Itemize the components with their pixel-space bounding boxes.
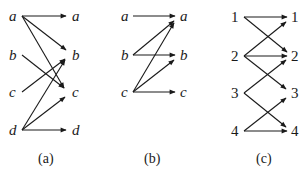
edge-4-3 — [244, 98, 286, 131]
node-1-left: 1 — [231, 9, 239, 25]
edge-d-c — [22, 97, 65, 130]
node-c-left: c — [121, 84, 128, 100]
edge-a-c — [22, 16, 64, 88]
diagram-c-edges — [244, 17, 287, 131]
node-c-right: c — [72, 84, 79, 100]
node-3-left: 3 — [231, 85, 239, 101]
diagram-a-edges — [22, 16, 66, 130]
node-a-left: a — [9, 8, 17, 24]
diagram-b-left-labels: a b c — [121, 8, 129, 100]
edge-d-b — [22, 60, 65, 130]
node-b-right: b — [180, 47, 188, 63]
node-a-right: a — [180, 8, 188, 24]
caption-a: (a) — [38, 151, 54, 167]
edge-b-a — [133, 21, 174, 55]
node-3-right: 3 — [291, 85, 299, 101]
node-4-right: 4 — [291, 123, 299, 139]
bipartite-mapping-diagrams: a b c d a b c d (a) a b c — [0, 0, 306, 176]
node-c-right: c — [180, 84, 187, 100]
node-a-left: a — [121, 8, 129, 24]
diagram-a-right-labels: a b c d — [72, 8, 80, 138]
node-c-left: c — [9, 84, 16, 100]
edge-3-2 — [244, 60, 286, 93]
diagram-a: a b c d a b c d (a) — [9, 8, 80, 167]
edge-1-2 — [244, 17, 287, 52]
edge-3-4 — [244, 93, 286, 127]
caption-b: (b) — [144, 151, 161, 167]
node-a-right: a — [72, 8, 80, 24]
diagram-c: 1 2 3 4 1 2 3 4 (c) — [231, 9, 299, 167]
node-b-left: b — [9, 47, 17, 63]
diagram-c-right-labels: 1 2 3 4 — [291, 9, 299, 139]
node-2-left: 2 — [231, 48, 239, 64]
edge-c-b — [22, 59, 65, 92]
node-d-left: d — [9, 122, 17, 138]
node-1-right: 1 — [291, 9, 299, 25]
node-d-right: d — [72, 122, 80, 138]
diagram-b-edges — [133, 16, 175, 92]
diagram-c-left-labels: 1 2 3 4 — [231, 9, 239, 139]
node-2-right: 2 — [291, 48, 299, 64]
edge-c-a — [133, 23, 174, 92]
edge-2-3 — [244, 56, 286, 89]
diagram-a-left-labels: a b c d — [9, 8, 17, 138]
edge-a-b — [22, 16, 66, 50]
node-b-left: b — [121, 47, 129, 63]
diagram-b-right-labels: a b c — [180, 8, 188, 100]
edge-2-1 — [244, 22, 286, 56]
edge-c-b — [133, 60, 174, 92]
caption-c: (c) — [256, 151, 272, 167]
diagram-b: a b c a b c (b) — [121, 8, 188, 167]
node-4-left: 4 — [231, 123, 239, 139]
node-b-right: b — [72, 47, 80, 63]
